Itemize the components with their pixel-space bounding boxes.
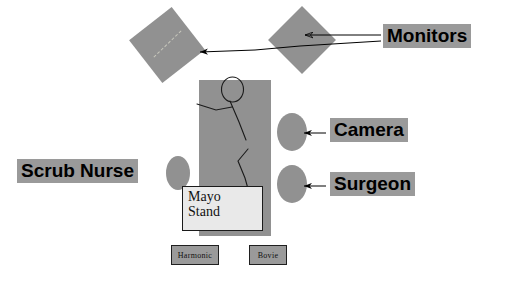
- operating-room-diagram: Mayo Stand Harmonic Bovie Monitors Camer…: [0, 0, 507, 284]
- mayo-stand-label-line2: Stand: [188, 205, 262, 220]
- scrub-nurse-position-marker: [166, 156, 190, 190]
- label-scrub-nurse: Scrub Nurse: [17, 159, 138, 183]
- bovie-device-box: Bovie: [249, 245, 287, 265]
- surgeon-position-marker: [277, 165, 307, 203]
- harmonic-device-box: Harmonic: [171, 245, 219, 265]
- mayo-stand-box: Mayo Stand: [182, 186, 263, 231]
- camera-operator-position-marker: [277, 113, 307, 151]
- monitor-right-shape: [268, 6, 336, 74]
- label-surgeon: Surgeon: [330, 172, 415, 196]
- label-camera: Camera: [330, 118, 408, 142]
- label-monitors: Monitors: [383, 24, 471, 48]
- monitor-left-shape: [129, 7, 205, 83]
- mayo-stand-label-line1: Mayo: [188, 190, 262, 205]
- monitor-screen-line-icon: [153, 30, 181, 57]
